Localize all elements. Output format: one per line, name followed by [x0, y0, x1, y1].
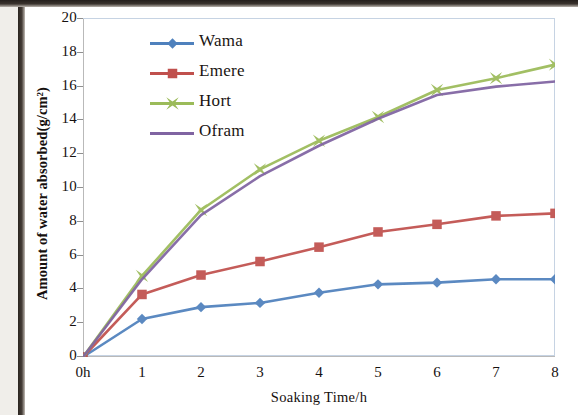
legend-item-wama[interactable]: Wama: [150, 29, 290, 59]
page-binding-edge-top: [0, 0, 578, 7]
legend-label: Wama: [199, 31, 243, 51]
legend-label: Hort: [199, 91, 231, 111]
legend-marker-icon: [166, 67, 179, 80]
data-point: [491, 211, 501, 221]
x-tick-label: 2: [197, 364, 205, 381]
data-point: [314, 288, 324, 298]
x-tick-label: 4: [315, 364, 323, 381]
x-tick-label: 5: [374, 364, 382, 381]
legend-label: Ofram: [199, 121, 245, 141]
page-binding-edge-left: [18, 0, 25, 415]
x-tick-label: 3: [256, 364, 264, 381]
data-point: [314, 242, 324, 252]
data-point: [137, 290, 147, 300]
y-tick-label: 6: [51, 247, 77, 262]
data-point: [550, 209, 555, 219]
chart-legend: WamaEmereHortOfram: [150, 29, 290, 149]
y-axis-tick-labels: 02468101214161820: [43, 7, 77, 415]
data-point: [255, 257, 265, 267]
legend-marker-icon: [166, 37, 179, 50]
y-tick-label: 14: [51, 111, 77, 126]
series-line: [83, 213, 555, 357]
data-point: [373, 279, 383, 289]
y-tick-label: 20: [51, 10, 77, 25]
data-point: [432, 277, 442, 287]
legend-marker-icon: [166, 97, 179, 110]
x-axis-title: Soaking Time/h: [83, 389, 555, 406]
data-point: [373, 227, 383, 237]
y-tick-label: 16: [51, 78, 77, 93]
y-tick-label: 12: [51, 145, 77, 160]
legend-line-swatch: [150, 132, 194, 135]
x-tick-label: 1: [138, 364, 146, 381]
y-tick-label: 8: [51, 213, 77, 228]
legend-item-emere[interactable]: Emere: [150, 59, 290, 89]
x-tick-label: 6: [433, 364, 441, 381]
data-point: [550, 274, 555, 284]
x-axis-tick-labels: 0h12345678: [25, 364, 578, 386]
x-tick-label: 8: [551, 364, 559, 381]
data-point: [255, 298, 265, 308]
legend-label: Emere: [199, 61, 245, 81]
legend-item-ofram[interactable]: Ofram: [150, 119, 290, 149]
page-margin: [0, 0, 18, 415]
y-tick-label: 0: [51, 348, 77, 363]
series-wama: [83, 274, 555, 357]
data-point: [196, 302, 206, 312]
data-point: [491, 274, 501, 284]
y-tick-label: 4: [51, 280, 77, 295]
line-chart: Amount of water absorbed(g/cm²) 02468101…: [25, 7, 578, 415]
legend-item-hort[interactable]: Hort: [150, 89, 290, 119]
data-point: [196, 270, 206, 280]
x-tick-label: 0h: [76, 364, 91, 381]
y-tick-label: 2: [51, 314, 77, 329]
data-point: [432, 220, 442, 230]
series-emere: [83, 209, 555, 357]
scanned-page: Amount of water absorbed(g/cm²) 02468101…: [0, 0, 578, 415]
y-tick-label: 10: [51, 179, 77, 194]
x-tick-label: 7: [492, 364, 500, 381]
y-tick-label: 18: [51, 44, 77, 59]
